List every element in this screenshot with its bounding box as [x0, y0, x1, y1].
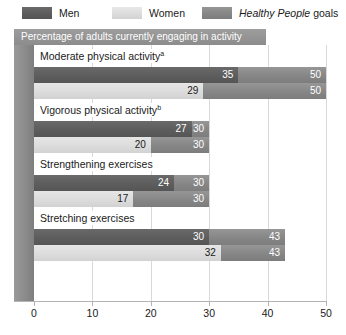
group-label: Vigorous physical activityb — [40, 103, 164, 117]
bar-value: 20 — [135, 138, 151, 152]
group-label: Moderate physical activitya — [40, 49, 167, 63]
x-tick-label-40: 40 — [262, 307, 274, 319]
bar-row: 3020 — [34, 137, 326, 153]
chart-subtitle-band: Percentage of adults currently engaging … — [14, 29, 266, 45]
bar-group: Strengthening exercises30243017 — [34, 153, 326, 207]
bar-goal-value: 30 — [193, 138, 209, 152]
legend-swatch-women — [112, 7, 142, 19]
x-tick-10 — [92, 301, 93, 306]
x-tick-40 — [268, 301, 269, 306]
x-tick-50 — [326, 301, 327, 306]
legend-entry-goal: Healthy People goals — [202, 4, 338, 22]
bar-group: Moderate physical activitya50355029 — [34, 45, 326, 99]
plot-region: Moderate physical activitya50355029Vigor… — [34, 45, 326, 301]
bar-men: 27 — [34, 121, 192, 137]
group-label-row: Stretching exercises — [34, 207, 326, 229]
legend-entry-women: Women — [112, 4, 185, 22]
group-label-footnote: b — [157, 104, 161, 111]
x-axis-line — [14, 301, 326, 302]
x-tick-label-30: 30 — [203, 307, 215, 319]
bar-row: 5029 — [34, 83, 326, 99]
x-tick-label-20: 20 — [145, 307, 157, 319]
legend-swatch-men — [22, 7, 52, 19]
x-axis: 01020304050 — [14, 301, 326, 331]
bar-value: 30 — [193, 230, 209, 244]
bar-row: 3017 — [34, 191, 326, 207]
bar-goal-value: 50 — [310, 68, 326, 82]
bar-value: 32 — [205, 246, 221, 260]
bar-goal-value: 43 — [269, 246, 285, 260]
axis-left-band — [14, 29, 34, 301]
bar-group: Vigorous physical activityb30273020 — [34, 99, 326, 153]
bar-women: 32 — [34, 245, 221, 261]
bar-row: 3027 — [34, 121, 326, 137]
group-label-row: Vigorous physical activityb — [34, 99, 326, 121]
x-tick-20 — [151, 301, 152, 306]
bar-value: 17 — [117, 192, 133, 206]
bar-row: 4330 — [34, 229, 326, 245]
x-tick-label-50: 50 — [320, 307, 332, 319]
chart-area: Percentage of adults currently engaging … — [14, 29, 326, 301]
bar-goal-value: 30 — [193, 122, 209, 136]
bar-men: 30 — [34, 229, 209, 245]
bar-row: 4332 — [34, 245, 326, 261]
legend-label-men: Men — [59, 7, 79, 19]
bar-goal-value: 30 — [193, 176, 209, 190]
group-label-row: Strengthening exercises — [34, 153, 326, 175]
gridline-50 — [326, 45, 327, 301]
legend-label-goal: Healthy People goals — [239, 7, 338, 19]
bar-women: 17 — [34, 191, 133, 207]
group-label: Strengthening exercises — [40, 157, 156, 171]
legend-label-women: Women — [149, 7, 185, 19]
bar-value: 29 — [187, 84, 203, 98]
bar-women: 29 — [34, 83, 203, 99]
bar-group: Stretching exercises43304332 — [34, 207, 326, 261]
bar-row: 3024 — [34, 175, 326, 191]
group-label: Stretching exercises — [40, 211, 138, 225]
chart-legend: MenWomenHealthy People goals — [0, 4, 346, 24]
group-label-footnote: a — [160, 50, 164, 57]
bar-goal-value: 30 — [193, 192, 209, 206]
x-tick-label-0: 0 — [31, 307, 37, 319]
x-tick-label-10: 10 — [87, 307, 99, 319]
bar-goal-value: 43 — [269, 230, 285, 244]
bar-men: 35 — [34, 67, 238, 83]
bar-men: 24 — [34, 175, 174, 191]
x-tick-30 — [209, 301, 210, 306]
chart-subtitle: Percentage of adults currently engaging … — [14, 31, 242, 43]
bar-goal-value: 50 — [310, 84, 326, 98]
legend-entry-men: Men — [22, 4, 79, 22]
x-tick-0 — [34, 301, 35, 306]
bar-row: 5035 — [34, 67, 326, 83]
bar-value: 27 — [176, 122, 192, 136]
bar-value: 35 — [222, 68, 238, 82]
legend-swatch-goal — [202, 7, 232, 19]
group-label-row: Moderate physical activitya — [34, 45, 326, 67]
bar-women: 20 — [34, 137, 151, 153]
bar-value: 24 — [158, 176, 174, 190]
legend-label-italic-part: Healthy People — [239, 7, 313, 19]
